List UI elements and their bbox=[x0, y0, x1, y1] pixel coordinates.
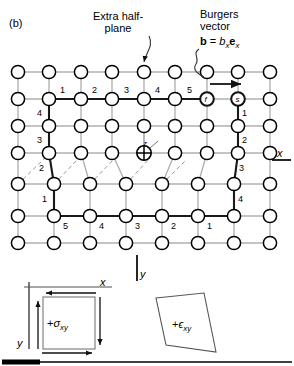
panel-label: (b) bbox=[9, 17, 22, 29]
burgers-vector-title: Burgers vector bbox=[200, 8, 239, 33]
circuit-step-top-2: 2 bbox=[92, 85, 97, 95]
figure-canvas bbox=[0, 0, 294, 366]
circuit-finish-label: f bbox=[205, 95, 207, 104]
y-axis-label: y bbox=[140, 268, 146, 280]
circuit-step-bottom-1: 1 bbox=[207, 221, 212, 231]
z-axis-leader bbox=[150, 141, 158, 148]
edge-dislocation-figure: (b) Extra half- plane Burgers vector b =… bbox=[0, 0, 294, 366]
circuit-start-label: s bbox=[236, 95, 240, 104]
burgers-vector-equation: b = bxex bbox=[200, 35, 239, 51]
circuit-step-top-4: 4 bbox=[155, 85, 160, 95]
extra-halfplane-leader bbox=[144, 36, 151, 62]
circuit-step-top-5: 5 bbox=[187, 85, 192, 95]
z-axis-label: z bbox=[143, 140, 147, 149]
circuit-step-right-2: 2 bbox=[242, 135, 247, 145]
circuit-step-right-3: 3 bbox=[239, 163, 244, 173]
x-axis-label: x bbox=[277, 147, 283, 159]
circuit-step-bottom-5: 5 bbox=[63, 221, 68, 231]
inset-x-axis-label: x bbox=[100, 276, 106, 288]
circuit-step-top-3: 3 bbox=[124, 85, 129, 95]
circuit-step-left-1: 1 bbox=[42, 194, 47, 204]
circuit-step-top-1: 1 bbox=[60, 85, 65, 95]
circuit-step-right-1: 1 bbox=[242, 108, 247, 118]
inset-y-axis-label: y bbox=[17, 337, 23, 349]
extra-halfplane-label: Extra half- plane bbox=[73, 10, 163, 35]
circuit-step-left-4: 4 bbox=[37, 108, 42, 118]
stress-inset bbox=[24, 282, 112, 353]
circuit-step-bottom-4: 4 bbox=[99, 221, 104, 231]
stress-component-label: +σxy bbox=[47, 317, 68, 333]
circuit-step-bottom-2: 2 bbox=[171, 221, 176, 231]
circuit-step-bottom-3: 3 bbox=[135, 221, 140, 231]
circuit-step-left-3: 3 bbox=[37, 135, 42, 145]
strain-component-label: +ϵxy bbox=[172, 318, 191, 334]
circuit-step-left-2: 2 bbox=[39, 163, 44, 173]
circuit-step-right-4: 4 bbox=[238, 194, 243, 204]
